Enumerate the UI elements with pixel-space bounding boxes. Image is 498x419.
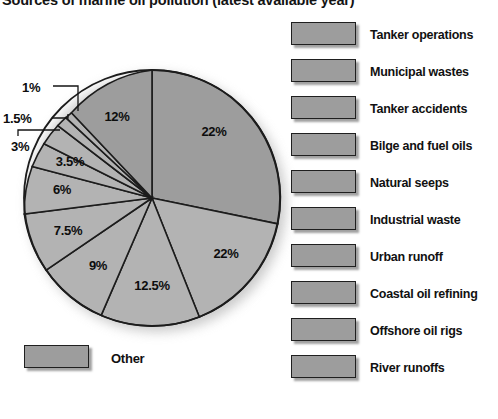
swatch-wrap-coastal-oil-refining xyxy=(291,281,360,308)
legend-label-natural-seeps: Natural seeps xyxy=(370,176,449,190)
pie-label-1: 1% xyxy=(22,80,41,95)
color-swatch-industrial-waste xyxy=(291,207,356,230)
legend-label-offshore-oil-rigs: Offshore oil rigs xyxy=(370,324,462,338)
swatch-wrap-offshore-oil-rigs xyxy=(291,318,360,345)
color-swatch-urban-runoff xyxy=(291,244,356,267)
legend-label-river-runoffs: River runoffs xyxy=(370,361,445,375)
swatch-wrap-tanker-accidents xyxy=(291,96,360,123)
pie-label-3-5: 3.5% xyxy=(56,154,85,169)
swatch-wrap-municipal-wastes xyxy=(291,59,360,86)
pie-label-22-a: 22% xyxy=(201,124,227,139)
color-swatch-municipal-wastes xyxy=(291,59,356,82)
other-swatch-wrap xyxy=(24,345,93,372)
legend-item-tanker-operations[interactable]: Tanker operations xyxy=(291,20,498,50)
legend-label-urban-runoff: Urban runoff xyxy=(370,250,443,264)
color-swatch-bilge-and-fuel-oils xyxy=(291,133,356,156)
legend-label-tanker-operations: Tanker operations xyxy=(370,28,473,42)
legend-item-municipal-wastes[interactable]: Municipal wastes xyxy=(291,57,498,87)
legend: Tanker operations Municipal wastes Tanke… xyxy=(291,20,498,410)
legend-label-coastal-oil-refining: Coastal oil refining xyxy=(370,287,478,301)
color-swatch-tanker-operations xyxy=(291,22,356,45)
legend-item-urban-runoff[interactable]: Urban runoff xyxy=(291,242,498,272)
legend-item-offshore-oil-rigs[interactable]: Offshore oil rigs xyxy=(291,316,498,346)
swatch-wrap-natural-seeps xyxy=(291,170,360,197)
swatch-wrap-bilge-and-fuel-oils xyxy=(291,133,360,160)
leader-line-1 xyxy=(53,86,78,111)
legend-item-natural-seeps[interactable]: Natural seeps xyxy=(291,168,498,198)
pie-label-12: 12% xyxy=(104,109,130,124)
chart-title: Sources of marine oil pollution (latest … xyxy=(2,0,422,11)
other-label: Other xyxy=(111,351,144,366)
pie-slice-tanker-operations[interactable] xyxy=(152,70,280,224)
color-swatch-coastal-oil-refining xyxy=(291,281,356,304)
swatch-wrap-industrial-waste xyxy=(291,207,360,234)
legend-item-tanker-accidents[interactable]: Tanker accidents xyxy=(291,94,498,124)
other-key: Other xyxy=(24,342,204,374)
legend-item-bilge-and-fuel-oils[interactable]: Bilge and fuel oils xyxy=(291,131,498,161)
other-color-swatch xyxy=(24,345,89,368)
legend-label-bilge-and-fuel-oils: Bilge and fuel oils xyxy=(370,139,472,153)
pie-label-3: 3% xyxy=(11,139,30,154)
pie-label-12-5: 12.5% xyxy=(134,278,170,293)
pie-svg: 22% 22% 12.5% 9% 7.5% 6% 3.5% 12% 3% 1.5… xyxy=(0,58,290,348)
pie-label-9: 9% xyxy=(89,258,108,273)
color-swatch-river-runoffs xyxy=(291,355,356,378)
pie-label-7-5: 7.5% xyxy=(54,223,83,238)
pie-label-22-b: 22% xyxy=(213,246,239,261)
pie-label-6: 6% xyxy=(53,182,72,197)
legend-item-river-runoffs[interactable]: River runoffs xyxy=(291,353,498,383)
pie-label-1-5: 1.5% xyxy=(3,111,32,126)
legend-item-coastal-oil-refining[interactable]: Coastal oil refining xyxy=(291,279,498,309)
legend-label-municipal-wastes: Municipal wastes xyxy=(370,65,469,79)
pie-chart: 22% 22% 12.5% 9% 7.5% 6% 3.5% 12% 3% 1.5… xyxy=(0,58,290,348)
legend-label-tanker-accidents: Tanker accidents xyxy=(370,102,467,116)
legend-item-industrial-waste[interactable]: Industrial waste xyxy=(291,205,498,235)
legend-label-industrial-waste: Industrial waste xyxy=(370,213,460,227)
swatch-wrap-urban-runoff xyxy=(291,244,360,271)
color-swatch-tanker-accidents xyxy=(291,96,356,119)
swatch-wrap-river-runoffs xyxy=(291,355,360,382)
color-swatch-natural-seeps xyxy=(291,170,356,193)
color-swatch-offshore-oil-rigs xyxy=(291,318,356,341)
swatch-wrap-tanker-operations xyxy=(291,22,360,49)
